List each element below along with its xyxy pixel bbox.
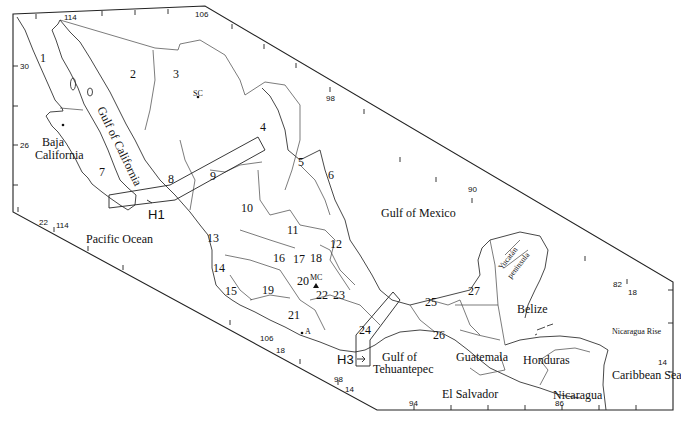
lon-106-top: 106 [195,10,209,19]
mc-label: MC [310,273,322,282]
mainland-pacific-coast [60,20,580,398]
lon-114-bottom: 114 [56,221,69,230]
region-7: 7 [99,165,105,179]
region-13: 13 [207,231,219,245]
baja-label-line2: California [35,148,84,162]
region-27: 27 [468,284,480,298]
point-markers [62,96,319,335]
sc-label: SC [193,89,203,98]
mexico-central-america-map: 1 2 3 4 5 6 7 8 9 10 11 12 13 14 15 16 1… [0,0,681,422]
region-3: 3 [173,67,179,81]
lon-90-top: 90 [468,185,477,194]
lon-82: 82 [613,280,622,289]
region-1: 1 [40,51,46,65]
region-22: 22 [316,288,328,302]
h3-label: H3 [337,352,354,367]
island-angel-guarda [88,88,93,96]
a-label: A [305,327,311,336]
lat-18-bottom: 18 [276,346,285,355]
h3-arrow [357,356,365,362]
frame-ticks [13,9,673,410]
lon-94: 94 [409,399,418,408]
h1-label: H1 [148,207,165,222]
lon-114-top: 114 [64,13,77,22]
region-10: 10 [241,201,253,215]
lat-18-right: 18 [628,288,637,297]
coastlines [17,17,608,410]
region-20: 20 [297,274,309,288]
region-2: 2 [130,67,136,81]
region-18: 18 [310,251,322,265]
region-8: 8 [168,172,174,186]
el-salvador-label: El Salvador [442,387,498,401]
caribbean-sea-label: Caribbean Sea [612,368,681,382]
region-5: 5 [298,155,304,169]
lon-98-bottom: 98 [334,375,343,384]
lon-106-bottom: 106 [260,334,274,343]
lon-86: 86 [555,399,564,408]
region-9: 9 [210,169,216,183]
region-19: 19 [262,283,274,297]
gulf-of-mexico-label: Gulf of Mexico [381,206,456,220]
lat-30: 30 [20,62,29,71]
baja-point [62,124,65,127]
region-17: 17 [293,252,305,266]
transect-boxes [109,137,400,366]
bay-islands [535,324,553,335]
gulf-of-tehuantepec-label-line2: Tehuantepec [373,362,433,376]
region-21: 21 [288,308,300,322]
region-23: 23 [333,288,345,302]
nicaragua-rise-label: Nicaragua Rise [612,327,662,336]
honduras-label: Honduras [523,353,570,367]
lat-26: 26 [20,141,29,150]
region-14: 14 [213,261,225,275]
region-24: 24 [359,323,371,337]
island-tiburon [71,78,76,90]
lat-22: 22 [39,218,48,227]
region-6: 6 [328,168,334,182]
pacific-ocean-label: Pacific Ocean [86,232,153,246]
belize-label: Belize [517,302,548,316]
lat-14-bottom: 14 [345,385,354,394]
baja-california-coast [17,17,136,210]
region-borders [60,20,590,385]
baja-label-line1: Baja [42,135,65,149]
region-26: 26 [433,328,445,342]
region-15: 15 [225,284,237,298]
region-25: 25 [425,295,437,309]
region-16: 16 [273,251,285,265]
a-point [301,332,304,335]
water-labels: Gulf of California Pacific Ocean Gulf of… [86,104,681,382]
guatemala-label: Guatemala [456,350,509,364]
lat-14-right: 14 [658,358,667,367]
lon-98-top: 98 [326,94,335,103]
h1-arrow [147,200,152,203]
region-12: 12 [330,237,342,251]
region-11: 11 [287,223,299,237]
region-4: 4 [260,120,266,134]
